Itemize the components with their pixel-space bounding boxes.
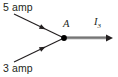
label-branch-5-amp: 5 amp bbox=[3, 2, 33, 13]
arrowhead-i3-icon bbox=[106, 35, 113, 42]
junction-node-dot bbox=[61, 35, 67, 41]
label-branch-current-i3: I3 bbox=[94, 17, 101, 28]
current-junction-figure: 5 amp 3 amp A I3 bbox=[0, 0, 118, 77]
arrowhead-3amp-icon bbox=[39, 44, 47, 51]
arrowhead-5amp-icon bbox=[39, 24, 47, 31]
label-junction-node-a: A bbox=[63, 19, 69, 30]
current-subscript: 3 bbox=[98, 22, 102, 30]
current-symbol: I bbox=[94, 16, 98, 27]
label-branch-3-amp: 3 amp bbox=[3, 63, 33, 74]
branch-line-3amp bbox=[14, 38, 64, 62]
branch-line-5amp bbox=[14, 14, 64, 38]
